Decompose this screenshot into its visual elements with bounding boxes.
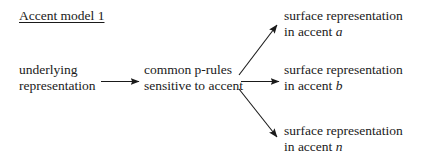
node-surface-n-line-1: surface representation	[284, 123, 403, 139]
node-surface-representation-accent-a: surface representation in accent a	[284, 8, 403, 40]
node-rules-line-2: sensitive to accent	[144, 78, 243, 94]
node-surface-representation-accent-b: surface representation in accent b	[284, 62, 403, 94]
node-underlying-line-2: representation	[19, 78, 95, 94]
node-surface-b-variable: b	[336, 78, 343, 93]
node-underlying-line-1: underlying	[19, 62, 95, 78]
node-surface-representation-accent-n: surface representation in accent n	[284, 123, 403, 155]
node-surface-a-prefix: in accent	[284, 24, 336, 39]
arrow-rules-to-surface-a	[239, 25, 277, 75]
node-underlying-representation: underlying representation	[19, 62, 95, 94]
accent-model-diagram: Accent model 1 underlying representation…	[0, 0, 425, 166]
node-surface-b-prefix: in accent	[284, 78, 336, 93]
node-surface-a-line-2: in accent a	[284, 24, 403, 40]
arrow-rules-to-surface-n	[239, 89, 277, 137]
node-rules-line-1: common p-rules	[144, 62, 243, 78]
node-surface-a-line-1: surface representation	[284, 8, 403, 24]
node-surface-n-prefix: in accent	[284, 139, 336, 154]
node-surface-n-line-2: in accent n	[284, 139, 403, 155]
node-surface-b-line-2: in accent b	[284, 78, 403, 94]
node-surface-n-variable: n	[336, 139, 343, 154]
node-surface-b-line-1: surface representation	[284, 62, 403, 78]
node-common-p-rules: common p-rules sensitive to accent	[144, 62, 243, 94]
node-surface-a-variable: a	[336, 24, 343, 39]
